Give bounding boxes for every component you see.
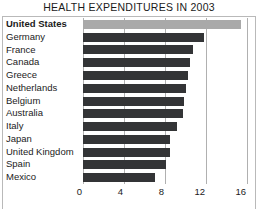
bar <box>83 84 186 93</box>
bar <box>83 148 170 157</box>
value-axis-ticks: 0481216 <box>0 186 258 200</box>
gridline-12 <box>206 18 207 184</box>
category-label: Canada <box>6 56 80 68</box>
tick-label-0: 0 <box>77 186 82 197</box>
bar <box>83 173 155 182</box>
category-label: Spain <box>6 158 80 170</box>
category-label: United States <box>6 18 80 30</box>
frame-top-rule <box>2 16 256 17</box>
bar <box>83 45 193 54</box>
frame-right-rule <box>255 16 256 209</box>
category-label: Italy <box>6 120 80 132</box>
category-label: Greece <box>6 69 80 81</box>
bar <box>83 135 170 144</box>
category-label: Belgium <box>6 95 80 107</box>
tick-label-4: 4 <box>118 186 123 197</box>
category-label: Australia <box>6 107 80 119</box>
bar <box>83 122 177 131</box>
bar <box>83 97 184 106</box>
chart-title: HEALTH EXPENDITURES IN 2003 <box>0 1 258 13</box>
category-label: Germany <box>6 31 80 43</box>
category-label: United Kingdom <box>6 146 80 158</box>
tick-label-12: 12 <box>194 186 205 197</box>
plot-area <box>83 18 247 184</box>
gridline-16 <box>247 18 248 184</box>
bar <box>83 71 188 80</box>
category-label: Mexico <box>6 171 80 183</box>
bar <box>83 160 166 169</box>
category-axis-labels: United StatesGermanyFranceCanadaGreeceNe… <box>0 18 80 184</box>
category-label: France <box>6 44 80 56</box>
category-label: Netherlands <box>6 82 80 94</box>
tick-label-8: 8 <box>159 186 164 197</box>
bar <box>83 20 241 29</box>
bar <box>83 58 190 67</box>
bar <box>83 109 183 118</box>
bar-chart-figure: HEALTH EXPENDITURES IN 2003 United State… <box>0 0 258 209</box>
bar <box>83 33 204 42</box>
tick-label-16: 16 <box>235 186 246 197</box>
category-label: Japan <box>6 133 80 145</box>
